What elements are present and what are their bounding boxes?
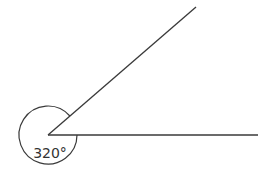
angle-label: 320°: [33, 145, 67, 161]
upper-ray: [48, 7, 196, 135]
angle-diagram: 320°: [0, 0, 269, 175]
